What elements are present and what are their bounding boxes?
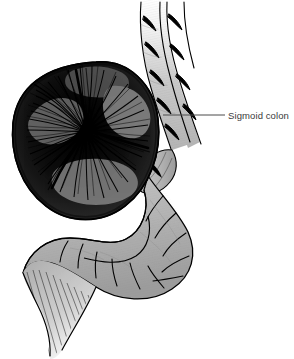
sigmoid-colon-illustration xyxy=(0,0,294,359)
sigmoid-colon-label: Sigmoid colon xyxy=(228,110,289,121)
distended-bowel-loop xyxy=(13,62,159,220)
figure-root: Sigmoid colon xyxy=(0,0,294,359)
